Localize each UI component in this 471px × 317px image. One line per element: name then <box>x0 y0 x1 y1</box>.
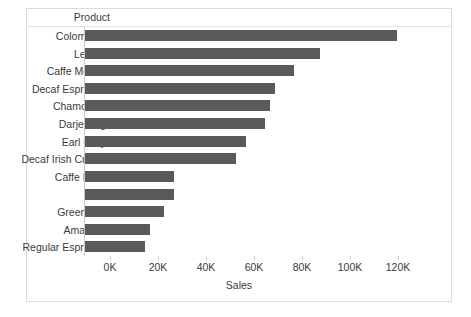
bar[interactable] <box>85 48 320 59</box>
bar[interactable] <box>85 189 174 200</box>
bar-row[interactable] <box>84 186 424 204</box>
bar-row[interactable] <box>84 221 424 239</box>
bar-row[interactable] <box>84 80 424 98</box>
bar[interactable] <box>85 136 246 147</box>
x-tick-label: 120K <box>368 261 428 274</box>
bar[interactable] <box>85 30 397 41</box>
sales-axis-title: Sales <box>26 278 452 292</box>
bar-row[interactable] <box>84 238 424 256</box>
bar-row[interactable] <box>84 27 424 45</box>
bar[interactable] <box>85 118 265 129</box>
plot-area <box>84 27 424 256</box>
sales-axis: 0K20K40K60K80K100K120K <box>110 256 450 278</box>
bar-row[interactable] <box>84 203 424 221</box>
bar[interactable] <box>85 171 174 182</box>
bar[interactable] <box>85 206 164 217</box>
bar-row[interactable] <box>84 168 424 186</box>
bar[interactable] <box>85 224 150 235</box>
bar-row[interactable] <box>84 62 424 80</box>
x-tick-mark <box>110 256 111 260</box>
x-tick-mark <box>206 256 207 260</box>
x-tick-mark <box>158 256 159 260</box>
bar-row[interactable] <box>84 45 424 63</box>
bar-row[interactable] <box>84 150 424 168</box>
x-tick-mark <box>350 256 351 260</box>
bar-row[interactable] <box>84 115 424 133</box>
bar-row[interactable] <box>84 133 424 151</box>
bar-rows <box>84 27 424 256</box>
bar[interactable] <box>85 83 275 94</box>
bar[interactable] <box>85 100 270 111</box>
product-field-header: Product <box>26 10 452 27</box>
bar[interactable] <box>85 241 145 252</box>
bar-row[interactable] <box>84 97 424 115</box>
x-tick-mark <box>398 256 399 260</box>
bar[interactable] <box>85 65 294 76</box>
product-axis-title: Product <box>26 10 110 24</box>
bar[interactable] <box>85 153 236 164</box>
x-tick-mark <box>254 256 255 260</box>
sales-by-product-bar-chart: Product ColombianLemonCaffe MochaDecaf E… <box>0 0 471 317</box>
x-tick-mark <box>302 256 303 260</box>
